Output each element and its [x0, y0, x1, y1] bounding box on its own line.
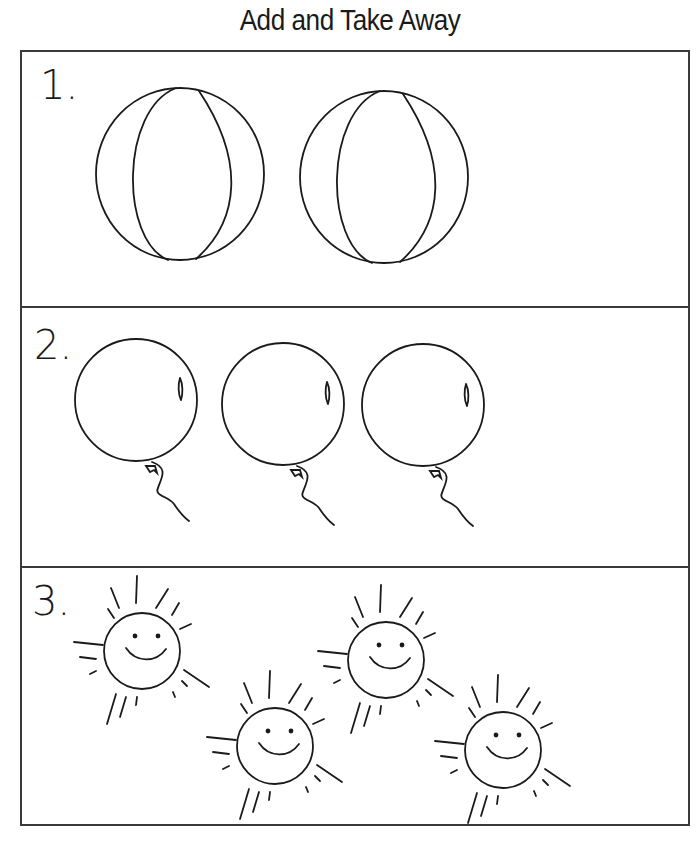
balloon-icon	[222, 343, 344, 525]
sun-icon	[207, 671, 342, 819]
sun-icon	[435, 675, 570, 823]
balloon-icon	[75, 339, 197, 521]
sun-icon	[74, 576, 209, 724]
beach-ball-icon	[300, 91, 468, 263]
balloon-icon	[362, 344, 484, 526]
beach-ball-icon	[96, 88, 264, 260]
sun-icon	[318, 585, 453, 733]
